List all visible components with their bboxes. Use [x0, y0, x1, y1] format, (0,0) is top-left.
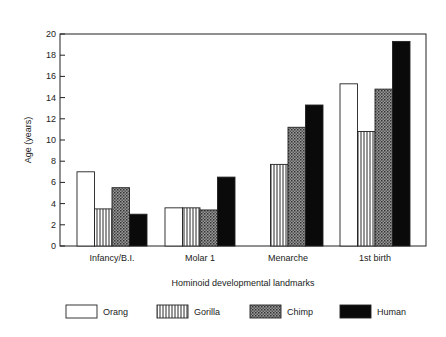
- legend-item-chimp: Chimp: [250, 305, 313, 318]
- bar-gorilla: [358, 132, 376, 246]
- y-tick-label: 0: [51, 241, 56, 251]
- x-tick-label: Molar 1: [185, 253, 215, 263]
- x-tick-label: Infancy/B.I.: [89, 253, 134, 263]
- legend-item-gorilla: Gorilla: [157, 305, 220, 318]
- legend-item-human: Human: [340, 305, 406, 318]
- y-tick-label: 4: [51, 199, 56, 209]
- bar-orang: [165, 208, 183, 246]
- legend-item-orang: Orang: [66, 305, 128, 318]
- y-tick-label: 10: [46, 135, 56, 145]
- legend-label: Orang: [103, 307, 128, 317]
- y-tick-label: 20: [46, 29, 56, 39]
- bar-human: [306, 105, 324, 246]
- x-axis-labels: Infancy/B.I.Molar 1Menarche1st birth: [89, 253, 391, 263]
- y-tick-label: 12: [46, 114, 56, 124]
- y-tick-label: 2: [51, 220, 56, 230]
- x-tick-label: 1st birth: [359, 253, 391, 263]
- legend-label: Chimp: [287, 307, 313, 317]
- bar-gorilla: [183, 208, 201, 246]
- legend-swatch: [340, 305, 371, 318]
- legend-label: Human: [377, 307, 406, 317]
- bar-human: [218, 177, 236, 246]
- legend-swatch: [250, 305, 281, 318]
- y-tick-label: 18: [46, 50, 56, 60]
- x-axis-title: Hominoid developmental landmarks: [171, 278, 315, 288]
- bars: [77, 41, 410, 246]
- bar-human: [130, 214, 148, 246]
- bar-chimp: [288, 127, 306, 246]
- y-axis: 02468101214161820: [46, 29, 65, 251]
- legend-swatch: [66, 305, 97, 318]
- y-tick-label: 16: [46, 71, 56, 81]
- legend-swatch: [157, 305, 188, 318]
- bar-gorilla: [95, 209, 113, 246]
- bar-gorilla: [271, 164, 289, 246]
- y-axis-title: Age (years): [23, 117, 33, 164]
- bar-human: [393, 41, 411, 246]
- x-tick-label: Menarche: [268, 253, 308, 263]
- y-tick-label: 8: [51, 156, 56, 166]
- bar-chimp: [112, 188, 130, 246]
- bar-orang: [77, 172, 95, 246]
- y-tick-label: 14: [46, 93, 56, 103]
- bar-chart: 02468101214161820 Infancy/B.I.Molar 1Men…: [0, 0, 446, 337]
- bar-chimp: [200, 210, 218, 246]
- y-tick-label: 6: [51, 177, 56, 187]
- bar-chimp: [375, 89, 393, 246]
- bar-orang: [340, 84, 358, 246]
- legend-label: Gorilla: [194, 307, 220, 317]
- legend: OrangGorillaChimpHuman: [66, 305, 406, 318]
